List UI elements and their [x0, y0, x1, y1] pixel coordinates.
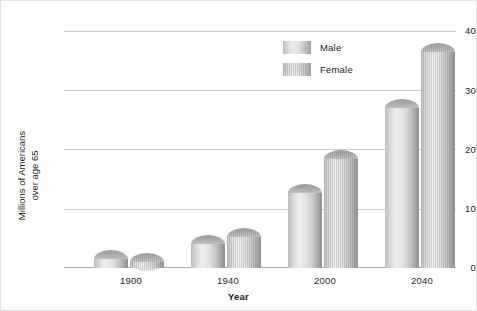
plot-area	[64, 31, 456, 268]
bar-body	[324, 159, 358, 268]
bar-body	[421, 52, 455, 268]
bar-2000-male[interactable]	[288, 184, 322, 268]
bar-group-2040	[377, 31, 467, 268]
x-tick-label-2040: 2040	[377, 275, 467, 286]
chart-legend: Male Female	[283, 36, 353, 80]
legend-label-female: Female	[320, 64, 353, 75]
bar-2040-female[interactable]	[421, 43, 455, 268]
y-axis-title: Millions of Americansover age 65	[15, 96, 41, 256]
male-swatch-icon	[283, 41, 311, 54]
x-tick-label-2000: 2000	[280, 275, 370, 286]
legend-item-male[interactable]: Male	[283, 36, 353, 58]
bar-body	[94, 259, 128, 268]
bar-body	[227, 237, 261, 268]
bar-2040-male[interactable]	[385, 99, 419, 268]
bar-2000-female[interactable]	[324, 150, 358, 268]
bar-body	[191, 244, 225, 268]
y-axis-title-text: Millions of Americansover age 65	[16, 96, 41, 256]
bar-1900-female[interactable]	[130, 253, 164, 268]
legend-item-female[interactable]: Female	[283, 58, 353, 80]
chart-figure: Millions of Americansover age 65 40 30 2…	[0, 0, 477, 311]
bar-group-1940	[183, 31, 273, 268]
x-tick-label-1900: 1900	[86, 275, 176, 286]
female-swatch-icon	[283, 63, 311, 76]
bar-1900-male[interactable]	[94, 250, 128, 268]
bar-body	[288, 193, 322, 268]
bar-group-1900	[86, 31, 176, 268]
bar-1940-male[interactable]	[191, 235, 225, 268]
x-tick-label-1940: 1940	[183, 275, 273, 286]
bar-body	[130, 262, 164, 268]
bar-body	[385, 108, 419, 268]
x-axis-title: Year	[1, 291, 476, 302]
legend-label-male: Male	[320, 42, 341, 53]
bar-1940-female[interactable]	[227, 228, 261, 268]
